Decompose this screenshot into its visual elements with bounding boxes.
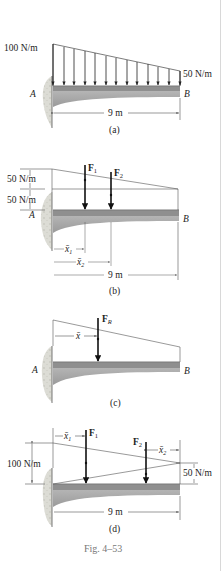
svg-text:FR: FR <box>102 314 112 325</box>
panel-c-caption: (c) <box>110 398 121 409</box>
xbar-label: x̄ <box>75 331 81 341</box>
svg-text:x̄2: x̄2 <box>76 257 84 268</box>
point-a-label: A <box>31 365 38 375</box>
point-a-label: A <box>28 210 35 220</box>
panel-a-caption: (a) <box>109 125 120 136</box>
length-label: 9 m <box>108 270 123 280</box>
wall-support <box>42 346 52 402</box>
svg-text:F1: F1 <box>88 163 97 174</box>
load-right-label: 50 N/m <box>183 69 212 79</box>
panel-d-caption: (d) <box>109 524 120 535</box>
svg-text:F2: F2 <box>133 437 142 448</box>
panel-d: 100 N/m 50 N/m F1 F2 x̄1 x̄2 9 m (d) <box>7 428 212 535</box>
load-envelope <box>53 44 180 71</box>
point-b-label: B <box>184 366 190 376</box>
wall-support <box>43 468 52 526</box>
svg-text:F1: F1 <box>89 428 98 439</box>
panel-b: 50 N/m 50 N/m A B F1 F2 x̄1 x̄2 9 m (b) <box>7 163 189 297</box>
distributed-load-arrows <box>53 44 180 85</box>
wall-support <box>43 76 52 128</box>
panel-b-caption: (b) <box>109 286 120 297</box>
figure-4-53: 100 N/m 50 N/m A B 9 m (a) <box>0 0 223 571</box>
length-label: 9 m <box>108 108 123 118</box>
beam <box>53 362 180 385</box>
load-left-label: 100 N/m <box>4 43 38 53</box>
beam <box>53 86 180 107</box>
point-b-label: B <box>183 214 189 224</box>
beam <box>53 484 180 507</box>
load-left-label: 100 N/m <box>7 459 41 469</box>
resultant-load-outline <box>53 320 180 362</box>
beam <box>53 210 179 233</box>
lower-load-label: 50 N/m <box>7 195 36 205</box>
centroid-dimensions <box>54 222 177 275</box>
length-label: 9 m <box>108 507 123 517</box>
figure-caption: Fig. 4–53 <box>84 543 122 554</box>
svg-text:x̄2: x̄2 <box>158 445 166 456</box>
svg-text:x̄1: x̄1 <box>63 431 71 442</box>
wall-support <box>41 192 52 250</box>
panel-c: x̄ FR A B (c) <box>31 314 190 409</box>
svg-text:x̄1: x̄1 <box>64 244 72 255</box>
point-a-label: A <box>29 89 36 99</box>
svg-text:F2: F2 <box>114 168 123 179</box>
point-b-label: B <box>184 89 190 99</box>
upper-load-label: 50 N/m <box>7 174 36 184</box>
panel-a: 100 N/m 50 N/m A B 9 m (a) <box>4 43 212 136</box>
load-right-label: 50 N/m <box>183 468 212 478</box>
